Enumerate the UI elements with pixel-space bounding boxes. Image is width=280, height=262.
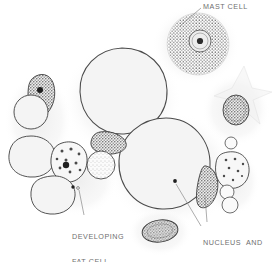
left-fat-cell-lower bbox=[9, 136, 55, 177]
label-developing-fat-cell-line2: FAT CELL bbox=[72, 258, 124, 262]
right-stromal-cell bbox=[223, 95, 249, 125]
label-nucleus-lipid-globule: NUCLEUS AND LIPID GLOBULE OF MATURE FAT … bbox=[203, 222, 264, 262]
developing-fat-cell-large bbox=[31, 176, 75, 214]
developing-fat-cell-round bbox=[87, 151, 115, 179]
label-mast-cell: MAST CELL bbox=[203, 3, 248, 11]
fat-cell-nucleus-dot bbox=[173, 179, 177, 183]
small-round-cell-top bbox=[225, 137, 237, 149]
left-fat-cell-upper bbox=[14, 95, 48, 129]
small-round-cell-bottom bbox=[222, 197, 238, 213]
label-developing-fat-cell: DEVELOPING FAT CELL bbox=[72, 216, 124, 262]
label-nucleus-line1: NUCLEUS AND bbox=[203, 239, 264, 247]
label-developing-fat-cell-line1: DEVELOPING bbox=[72, 233, 124, 241]
developing-cell-nucleus bbox=[63, 162, 69, 168]
mast-cell bbox=[167, 13, 229, 75]
